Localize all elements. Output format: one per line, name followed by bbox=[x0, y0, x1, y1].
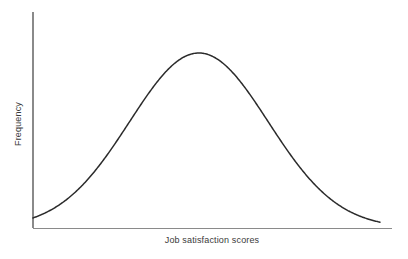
chart-figure: Frequency Job satisfaction scores bbox=[0, 0, 408, 259]
bell-curve-path bbox=[33, 53, 380, 222]
normal-distribution-plot bbox=[0, 0, 408, 259]
x-axis-label: Job satisfaction scores bbox=[92, 235, 332, 245]
y-axis-label: Frequency bbox=[13, 64, 23, 184]
